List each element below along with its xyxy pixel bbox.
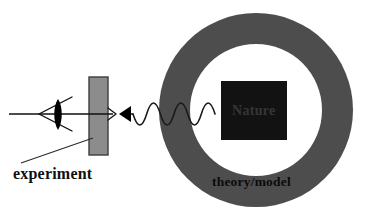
science-loop-diagram: Nature theory/model experiment [0, 0, 370, 218]
theory-model-label: theory/model [212, 174, 291, 189]
nature-label: Nature [232, 103, 276, 118]
experiment-detector-slab [89, 77, 108, 155]
wave-arrowhead-left-icon [119, 106, 131, 122]
experiment-label: experiment [13, 165, 93, 183]
diagram-canvas: Nature theory/model experiment [0, 0, 370, 218]
experiment-leader-line [21, 138, 93, 163]
